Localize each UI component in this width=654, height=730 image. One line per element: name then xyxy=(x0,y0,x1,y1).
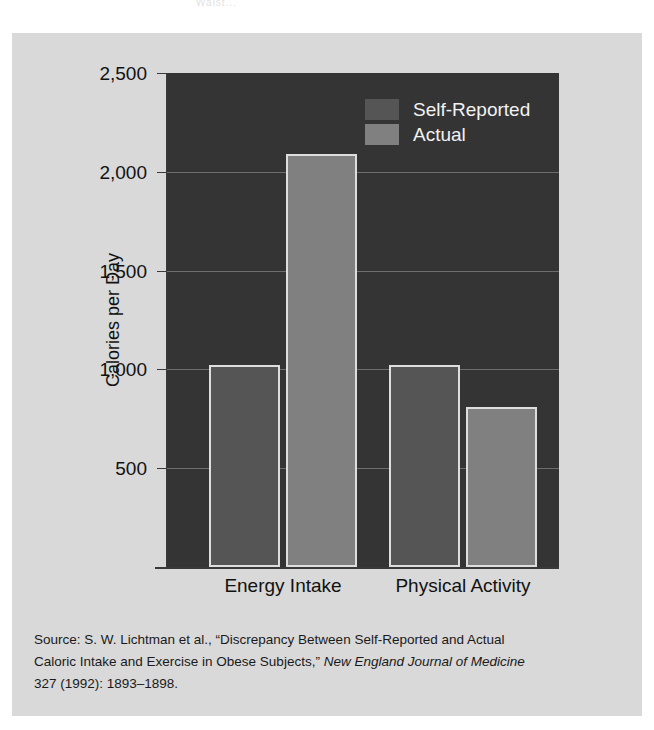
source-note: Source: S. W. Lichtman et al., “Discrepa… xyxy=(34,629,614,695)
source-journal-name: New England Journal of Medicine xyxy=(324,654,525,669)
legend-item-self-reported: Self-Reported xyxy=(365,99,530,120)
plot-area: Self-Reported Actual xyxy=(167,73,559,567)
legend-label-actual: Actual xyxy=(413,125,466,144)
y-tick-mark xyxy=(157,172,167,173)
legend-swatch-actual xyxy=(365,124,399,145)
source-line-1: Source: S. W. Lichtman et al., “Discrepa… xyxy=(34,629,614,651)
x-category-label: Physical Activity xyxy=(395,575,530,597)
cropped-header-remnant: Waist... xyxy=(0,0,654,14)
bar-actual-physical-activity xyxy=(466,407,537,567)
x-axis-line xyxy=(155,567,559,569)
y-tick-label: 1,500 xyxy=(99,261,147,280)
bar-actual-energy-intake xyxy=(286,154,357,567)
y-tick-label: 2,500 xyxy=(99,64,147,83)
y-tick-label: 2,000 xyxy=(99,162,147,181)
plot-wrapper: Calories per Day 2,5002,0001,5001,000500… xyxy=(155,73,559,607)
x-category-label: Energy Intake xyxy=(224,575,341,597)
y-tick-mark xyxy=(157,271,167,272)
legend-swatch-self-reported xyxy=(365,99,399,120)
y-tick-mark xyxy=(157,369,167,370)
y-tick-label: 500 xyxy=(115,459,147,478)
y-tick-mark xyxy=(157,73,167,74)
gridline xyxy=(167,271,559,272)
source-line-3: 327 (1992): 1893–1898. xyxy=(34,673,614,695)
legend-label-self-reported: Self-Reported xyxy=(413,100,530,119)
source-line-2: Caloric Intake and Exercise in Obese Sub… xyxy=(34,651,614,673)
bar-self-reported-energy-intake xyxy=(209,365,280,567)
source-line-2-text: Caloric Intake and Exercise in Obese Sub… xyxy=(34,654,324,669)
y-tick-mark xyxy=(157,468,167,469)
legend-item-actual: Actual xyxy=(365,124,530,145)
y-tick-label: 1,000 xyxy=(99,360,147,379)
cropped-header-text: Waist... xyxy=(196,0,306,8)
bar-self-reported-physical-activity xyxy=(389,365,460,567)
figure-panel: Calories per Day 2,5002,0001,5001,000500… xyxy=(12,33,642,716)
gridline xyxy=(167,172,559,173)
chart-legend: Self-Reported Actual xyxy=(365,99,530,145)
